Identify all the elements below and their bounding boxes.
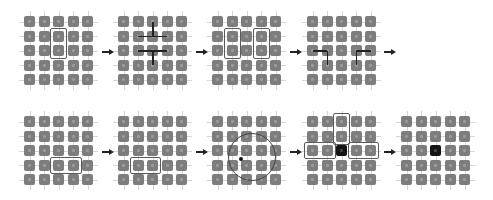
cell-dot-icon [151, 178, 154, 181]
cell-dot-icon [231, 78, 234, 81]
cell-dot-icon [311, 64, 314, 67]
cell-dot-icon [340, 178, 343, 181]
qubit-cell [39, 60, 50, 71]
qubit-cell [401, 160, 412, 171]
qubit-cell [82, 45, 93, 56]
qubit-cell [68, 116, 79, 127]
selection-box [224, 28, 241, 60]
qubit-cell [39, 74, 50, 85]
grid-panel [118, 116, 196, 194]
qubit-cell [336, 45, 347, 56]
cell-dot-icon [216, 20, 219, 23]
qubit-cell [336, 174, 347, 185]
cell-dot-icon [72, 120, 75, 123]
qubit-cell [459, 116, 470, 127]
qubit-cell [39, 116, 50, 127]
qubit-cell [176, 174, 187, 185]
qubit-cell [82, 74, 93, 85]
cell-dot-icon [151, 78, 154, 81]
cell-dot-icon [463, 178, 466, 181]
cell-dot-icon [420, 149, 423, 152]
cell-dot-icon [355, 135, 358, 138]
qubit-cell [24, 174, 35, 185]
qubit-cell [212, 145, 223, 156]
cell-dot-icon [122, 78, 125, 81]
qubit-cell [176, 74, 187, 85]
qubit-cell [39, 16, 50, 27]
qubit-cell [53, 16, 64, 27]
qubit-cell [416, 174, 427, 185]
cell-dot-icon [311, 120, 314, 123]
arrow-head [297, 149, 302, 155]
cell-dot-icon [28, 149, 31, 152]
cell-dot-icon [326, 164, 329, 167]
cell-dot-icon [57, 149, 60, 152]
qubit-cell [24, 145, 35, 156]
cell-dot-icon [326, 135, 329, 138]
qubit-cell [39, 174, 50, 185]
qubit-cell [68, 31, 79, 42]
qubit-cell [68, 60, 79, 71]
qubit-cell [147, 174, 158, 185]
cell-dot-icon [274, 20, 277, 23]
cell-dot-icon [43, 64, 46, 67]
coupling-link [356, 50, 371, 52]
qubit-cell [401, 174, 412, 185]
cell-dot-icon [231, 135, 234, 138]
qubit-cell [459, 174, 470, 185]
grid-panel [24, 116, 102, 194]
qubit-cell [176, 145, 187, 156]
cell-dot-icon [355, 78, 358, 81]
qubit-cell [307, 160, 318, 171]
cell-dot-icon [180, 49, 183, 52]
coupling-link [356, 51, 358, 66]
right-arrow-icon [102, 49, 114, 55]
qubit-cell [176, 131, 187, 142]
cell-dot-icon [137, 120, 140, 123]
qubit-cell [118, 60, 129, 71]
qubit-cell [336, 60, 347, 71]
cell-dot-icon [369, 178, 372, 181]
arrow-head [391, 149, 396, 155]
cell-dot-icon [311, 78, 314, 81]
cell-dot-icon [28, 35, 31, 38]
qubit-cell [416, 160, 427, 171]
qubit-cell [270, 45, 281, 56]
qubit-cell [365, 131, 376, 142]
qubit-cell [430, 116, 441, 127]
cell-dot-icon [405, 164, 408, 167]
qubit-cell [118, 31, 129, 42]
qubit-cell [307, 131, 318, 142]
cell-dot-icon [245, 78, 248, 81]
cell-dot-icon [86, 135, 89, 138]
cell-dot-icon [434, 120, 437, 123]
qubit-cell [365, 74, 376, 85]
qubit-cell [307, 31, 318, 42]
qubit-cell [133, 131, 144, 142]
qubit-cell [53, 116, 64, 127]
cell-dot-icon [434, 164, 437, 167]
qubit-cell [459, 160, 470, 171]
qubit-cell [176, 116, 187, 127]
qubit-cell [270, 60, 281, 71]
qubit-cell [212, 45, 223, 56]
cell-dot-icon [449, 135, 452, 138]
qubit-cell [82, 31, 93, 42]
arrow-head [203, 149, 208, 155]
cell-dot-icon [166, 149, 169, 152]
qubit-cell [176, 160, 187, 171]
right-arrow-icon [196, 149, 208, 155]
center-node [239, 157, 243, 161]
cell-dot-icon [166, 78, 169, 81]
qubit-cell [416, 116, 427, 127]
cell-dot-icon [137, 178, 140, 181]
cell-dot-icon [180, 35, 183, 38]
qubit-cell [162, 116, 173, 127]
cell-dot-icon [449, 120, 452, 123]
qubit-cell [53, 74, 64, 85]
qubit-cell [270, 131, 281, 142]
selection-box [50, 28, 67, 60]
qubit-cell [118, 116, 129, 127]
qubit-cell [39, 131, 50, 142]
qubit-cell [351, 31, 362, 42]
